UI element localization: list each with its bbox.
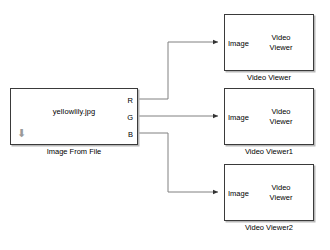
block-title-line2: Viewer: [253, 193, 309, 203]
input-port-label-image: Image: [228, 112, 249, 121]
block-title-line1: Video: [253, 183, 309, 193]
block-title-line1: Video: [253, 33, 309, 43]
down-arrow-icon: ⬇: [17, 128, 26, 140]
block-image-from-file[interactable]: yellowlily.jpg R G B ⬇: [10, 88, 138, 145]
simulink-model-canvas[interactable]: yellowlily.jpg R G B ⬇ Image From File I…: [0, 0, 330, 250]
output-port-label-b: B: [128, 131, 133, 139]
input-port-label-image: Image: [228, 188, 249, 197]
block-title-line2: Viewer: [253, 117, 309, 127]
block-title-line2: Viewer: [253, 43, 309, 53]
output-port-label-r: R: [128, 97, 133, 105]
block-title: Video Viewer: [253, 33, 309, 53]
wire-r-to-video-viewer: [138, 42, 218, 99]
block-video-viewer1[interactable]: Image Video Viewer: [224, 88, 314, 145]
image-filename-label: yellowlily.jpg: [11, 107, 137, 116]
wire-b-to-video-viewer2: [138, 133, 218, 192]
block-title-line1: Video: [253, 107, 309, 117]
block-video-viewer[interactable]: Image Video Viewer: [224, 14, 314, 71]
block-caption-video-viewer1: Video Viewer1: [224, 147, 314, 156]
block-video-viewer2[interactable]: Image Video Viewer: [224, 164, 314, 221]
block-title: Video Viewer: [253, 107, 309, 127]
block-caption-video-viewer: Video Viewer: [224, 73, 314, 82]
block-caption-image-from-file: Image From File: [10, 147, 138, 156]
block-title: Video Viewer: [253, 183, 309, 203]
input-port-label-image: Image: [228, 38, 249, 47]
output-port-label-g: G: [127, 114, 133, 122]
block-caption-video-viewer2: Video Viewer2: [224, 223, 314, 232]
